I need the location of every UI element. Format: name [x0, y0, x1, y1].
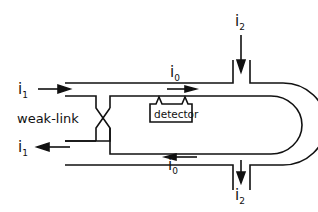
superfluid-loop-diagram: i1 i1 i0 i0 i2 i2 weak-link detector — [0, 0, 318, 212]
outer-channel-top-right — [250, 60, 318, 190]
arrow-i1-in-icon — [58, 85, 70, 93]
arrow-i1-out-icon — [37, 143, 49, 151]
inner-channel-main — [110, 96, 302, 154]
arrow-i2-in-icon — [237, 60, 245, 72]
arrow-i2-out-icon — [237, 172, 245, 183]
label-i2-bottom: i2 — [235, 186, 245, 206]
outer-channel-top — [65, 60, 233, 83]
label-weak-link: weak-link — [17, 111, 79, 126]
outer-channel-bottom — [65, 165, 233, 190]
label-i0-top: i0 — [170, 63, 180, 83]
label-i2-top: i2 — [235, 12, 245, 32]
label-i1-in: i1 — [18, 80, 28, 100]
label-i1-out: i1 — [18, 138, 28, 158]
arrow-i0-top-icon — [185, 86, 196, 92]
label-detector: detector — [154, 108, 199, 120]
